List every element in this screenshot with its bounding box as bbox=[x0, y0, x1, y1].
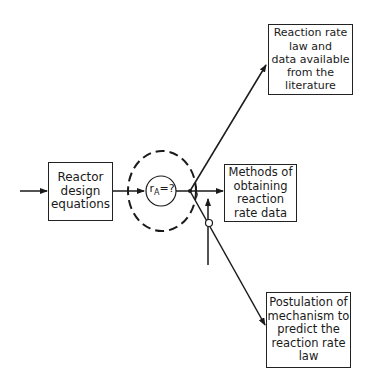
literature-line-3: data available bbox=[272, 53, 350, 66]
literature-box: Reaction rate law and data available fro… bbox=[268, 24, 353, 95]
reactor-line-2: design bbox=[61, 185, 101, 199]
mechanism-box: Postulation of mechanism to predict the … bbox=[266, 292, 351, 368]
mechanism-line-5: law bbox=[299, 350, 319, 364]
crossover-hop bbox=[206, 220, 213, 227]
methods-box: Methods of obtaining reaction rate data bbox=[224, 164, 297, 222]
reactor-line-3: equations bbox=[51, 198, 110, 212]
mechanism-line-2: mechanism to bbox=[268, 310, 350, 324]
literature-line-5: literature bbox=[285, 79, 336, 92]
reactor-line-1: Reactor bbox=[57, 171, 103, 185]
methods-line-1: Methods of bbox=[229, 166, 293, 180]
reactor-design-equations-box: Reactor design equations bbox=[48, 162, 113, 221]
methods-line-4: rate data bbox=[234, 207, 287, 221]
rate-suffix: =? bbox=[159, 182, 174, 195]
mechanism-line-1: Postulation of bbox=[269, 296, 347, 310]
rate-unknown-label: rA=? bbox=[148, 182, 176, 197]
methods-line-3: reaction bbox=[237, 193, 284, 207]
literature-line-2: law and bbox=[289, 40, 332, 53]
mechanism-line-3: predict the bbox=[277, 323, 340, 337]
literature-line-4: from the bbox=[287, 66, 334, 79]
literature-line-1: Reaction rate bbox=[274, 26, 348, 39]
methods-line-2: obtaining bbox=[233, 180, 287, 194]
mechanism-line-4: reaction rate bbox=[272, 337, 346, 351]
